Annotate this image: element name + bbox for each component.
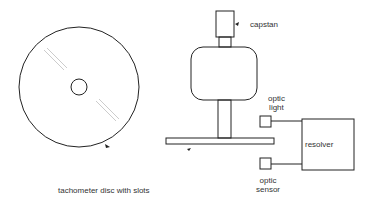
capstan-top-block <box>216 11 234 37</box>
capstan-rotation-arrow <box>235 22 239 26</box>
optic-light-label: optic light <box>268 94 285 112</box>
capstan-shaft <box>218 100 231 138</box>
tachometer-disc <box>19 27 139 147</box>
optic-sensor-label-line1: optic <box>256 176 280 185</box>
edge-rotation-arrow <box>187 148 191 151</box>
optic-light-label-line1: optic <box>268 94 285 103</box>
capstan-neck <box>219 37 231 47</box>
optic-light-label-line2: light <box>268 103 285 112</box>
optic-sensor-box <box>260 158 271 169</box>
disc-caption: tachometer disc with slots <box>58 186 150 195</box>
resolver-label: resolver <box>305 140 333 149</box>
optic-light-box <box>260 116 271 127</box>
capstan-label: capstan <box>250 20 278 29</box>
diagram-canvas <box>0 0 370 203</box>
disc-edge-view <box>166 138 274 144</box>
optic-sensor-label-line2: sensor <box>256 185 280 194</box>
capstan-body <box>191 47 257 100</box>
optic-sensor-label: optic sensor <box>256 176 280 194</box>
disc-hub <box>71 79 87 95</box>
disc-rotation-arrow <box>105 144 110 148</box>
